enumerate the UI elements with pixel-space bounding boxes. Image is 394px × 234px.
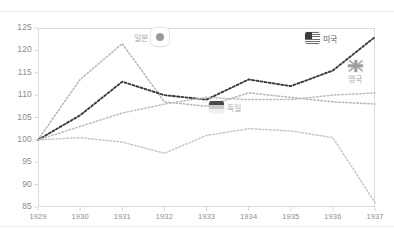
legend-item-usa[interactable]: 미국 (305, 32, 337, 44)
series-line-germany (38, 129, 375, 203)
uk-flag-horizontal-icon (348, 64, 363, 67)
legend-label-germany: 독일 (227, 102, 241, 113)
germany-flag-icon (209, 101, 224, 113)
legend-item-japan[interactable]: 일본 (134, 28, 169, 46)
legend-label-usa: 미국 (323, 33, 337, 44)
legend-item-uk[interactable]: 영국 (348, 60, 363, 84)
series-line-usa (38, 37, 375, 140)
germany-flag-band-3-icon (209, 109, 224, 113)
usa-flag-icon (305, 32, 320, 44)
japan-flag-disc-icon (156, 33, 164, 41)
series-line-japan (38, 44, 375, 140)
uk-flag-icon (348, 60, 363, 72)
chart-container: 859095100105110115120125 192919301931193… (0, 0, 394, 234)
legend-label-japan: 일본 (134, 32, 148, 43)
japan-flag-badge-icon (151, 28, 169, 46)
legend-label-uk: 영국 (348, 73, 362, 84)
usa-flag-canton-icon (305, 32, 312, 39)
legend-item-germany[interactable]: 독일 (209, 101, 241, 113)
